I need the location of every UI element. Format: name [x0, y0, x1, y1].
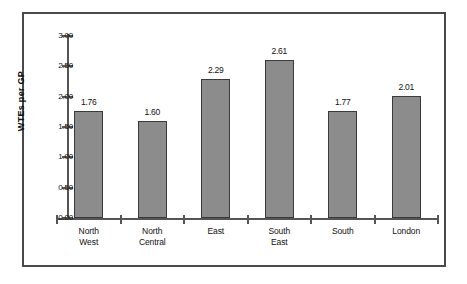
x-tick-mark	[183, 215, 185, 224]
y-axis-title: WTEs per GP	[16, 56, 26, 146]
bar-value-label: 1.77	[323, 98, 363, 107]
x-category-label: SouthEast	[247, 226, 311, 248]
bar-value-label: 1.76	[69, 98, 109, 107]
bar	[265, 60, 294, 218]
x-category-label: NorthWest	[57, 226, 121, 248]
bar	[74, 111, 103, 218]
bar-value-label: 1.60	[132, 108, 172, 117]
bar	[392, 96, 421, 218]
x-category-label-line: North	[57, 226, 121, 237]
bar	[201, 79, 230, 218]
y-tick-label: 2.50	[45, 62, 73, 70]
x-category-label: East	[184, 226, 248, 237]
x-tick-mark	[247, 215, 249, 224]
x-category-label-line: South	[311, 226, 375, 237]
bar-value-label: 2.29	[196, 66, 236, 75]
y-tick-label: 1.00	[45, 153, 73, 161]
x-category-label: South	[311, 226, 375, 237]
y-tick-label: 3.00	[45, 32, 73, 40]
x-category-label-line: West	[57, 237, 121, 248]
x-category-label-line: South	[247, 226, 311, 237]
x-category-label-line: East	[247, 237, 311, 248]
y-tick-label: 0.00	[45, 214, 73, 222]
x-category-label-line: East	[184, 226, 248, 237]
y-tick-label-row: 3.00	[30, 32, 73, 40]
y-tick-label-row: 2.00	[30, 93, 73, 101]
x-tick-mark	[56, 215, 58, 224]
bar-value-label: 2.01	[386, 83, 426, 92]
bar	[328, 111, 357, 218]
x-category-label: NorthCentral	[120, 226, 184, 248]
y-tick-label: 1.50	[45, 123, 73, 131]
y-tick-label-row: 0.00	[30, 214, 73, 222]
chart-figure: WTEs per GP 0.000.501.001.502.002.503.00…	[0, 0, 467, 284]
x-tick-mark	[437, 215, 439, 224]
y-tick-label: 0.50	[45, 184, 73, 192]
x-category-label-line: London	[374, 226, 438, 237]
y-tick-label-row: 0.50	[30, 184, 73, 192]
bar	[138, 121, 167, 218]
x-category-label-line: Central	[120, 237, 184, 248]
y-tick-label-row: 1.00	[30, 153, 73, 161]
x-tick-mark	[374, 215, 376, 224]
y-tick-label-row: 2.50	[30, 62, 73, 70]
bar-value-label: 2.61	[259, 47, 299, 56]
x-tick-mark	[310, 215, 312, 224]
plot-area: WTEs per GP 0.000.501.001.502.002.503.00…	[0, 0, 467, 284]
x-category-label-line: North	[120, 226, 184, 237]
x-tick-mark	[120, 215, 122, 224]
y-tick-label-row: 1.50	[30, 123, 73, 131]
x-category-label: London	[374, 226, 438, 237]
